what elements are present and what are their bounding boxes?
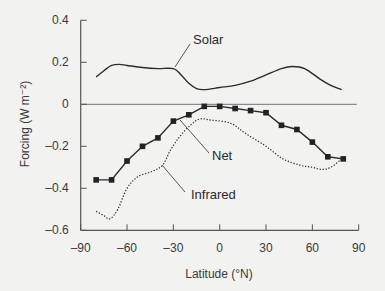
y-tick-label: 0.2 xyxy=(52,55,69,69)
net-marker xyxy=(109,177,115,183)
net-marker xyxy=(232,106,238,112)
infrared-label: Infrared xyxy=(191,187,236,202)
solar-series xyxy=(96,64,342,89)
tick-labels: 0.40.20–0.2–0.4–0.6–90–60–300306090 xyxy=(45,13,365,255)
forcing-latitude-chart: 0.40.20–0.2–0.4–0.6–90–60–300306090 Sola… xyxy=(0,0,385,291)
x-tick-label: 60 xyxy=(306,241,320,255)
net-marker xyxy=(217,104,223,110)
net-marker xyxy=(263,110,269,116)
x-tick-label: 30 xyxy=(259,241,273,255)
x-axis-title: Latitude (°N) xyxy=(185,267,253,281)
net-marker xyxy=(279,123,285,129)
x-tick-label: 0 xyxy=(216,241,223,255)
net-leader-line xyxy=(180,120,209,153)
net-marker xyxy=(124,158,130,164)
net-marker xyxy=(310,139,316,145)
net-marker xyxy=(294,127,300,133)
net-series xyxy=(96,106,343,179)
y-tick-label: 0.4 xyxy=(52,13,69,27)
net-marker xyxy=(186,112,192,118)
y-tick-label: –0.4 xyxy=(45,181,69,195)
net-marker xyxy=(155,135,161,141)
x-tick-label: –30 xyxy=(163,241,183,255)
x-tick-label: –90 xyxy=(71,241,91,255)
y-axis-title: Forcing (W m⁻²) xyxy=(18,81,32,167)
net-marker xyxy=(325,154,331,160)
y-tick-label: –0.2 xyxy=(45,139,69,153)
infrared-leader-line xyxy=(162,165,185,192)
net-marker xyxy=(93,177,99,183)
net-marker xyxy=(248,108,254,114)
net-label: Net xyxy=(212,148,233,163)
infrared-series xyxy=(96,119,342,219)
net-marker xyxy=(171,118,177,124)
net-marker xyxy=(140,144,146,150)
net-marker xyxy=(201,104,207,110)
y-tick-label: 0 xyxy=(62,97,69,111)
solar-leader-line xyxy=(175,44,190,67)
y-tick-label: –0.6 xyxy=(45,223,69,237)
solar-label: Solar xyxy=(193,32,224,47)
x-tick-label: 90 xyxy=(352,241,366,255)
x-tick-label: –60 xyxy=(117,241,137,255)
leader-lines xyxy=(162,44,209,192)
